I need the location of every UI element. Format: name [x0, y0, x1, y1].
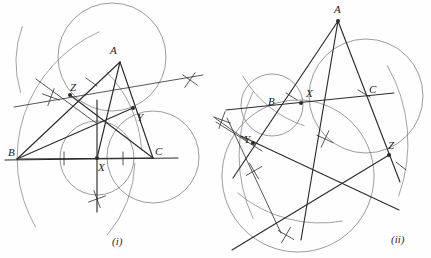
geometry-drawing: [0, 0, 431, 258]
panel-i-arc-bz-upper: [16, 26, 22, 92]
label-panel-ii-A: A: [334, 4, 341, 15]
label-panel-i-X: X: [98, 162, 105, 173]
panel-i-tick-mark-AZ: [86, 78, 97, 86]
construction-lines-layer: [5, 21, 406, 250]
panel-ii-point-Z: [387, 153, 391, 157]
label-panel-ii-C: C: [369, 84, 377, 95]
panel-ii-cevian-AX: [301, 21, 338, 240]
panel-ii-tick-near-Z: [396, 162, 406, 170]
construction-arcs-layer: [16, 26, 408, 234]
intersection-marks-layer: [43, 73, 334, 243]
panel-ii-cross-lower-left: [282, 227, 291, 243]
caption-panel-ii: (ii): [391, 234, 404, 245]
panel-i-side-CA: [120, 62, 153, 158]
label-panel-ii-Y: Y: [244, 134, 250, 145]
panel-ii-cross-under-B: [246, 167, 262, 176]
caption-panel-i: (i): [112, 236, 122, 247]
label-panel-i-C: C: [155, 146, 163, 157]
panel-ii-arc-bottom: [238, 193, 343, 223]
label-panel-i-B: B: [8, 147, 15, 158]
panel-i-cross-right-upper: [185, 73, 195, 88]
panel-ii-point-A: [336, 19, 340, 23]
panel-i-point-Y: [131, 106, 135, 110]
panel-ii-cevian-from-Z: [232, 155, 389, 250]
panel-i-point-X: [95, 156, 99, 160]
panel-ii-cross-mid: [321, 131, 329, 147]
label-panel-i-Z: Z: [70, 82, 76, 93]
panel-i-ray-ZY-extended: [14, 75, 203, 107]
panel-i-cevian-CZ: [70, 95, 153, 158]
panel-ii-circle-big-lower: [222, 100, 374, 252]
label-panel-ii-Z: Z: [388, 140, 394, 151]
panel-ii-point-Y: [251, 141, 255, 145]
panel-ii-point-X: [299, 101, 303, 105]
panel-ii-side-AC-ext: [338, 21, 400, 182]
panel-i-cross-left-upper: [48, 89, 54, 106]
label-panel-i-Y: Y: [137, 112, 143, 123]
label-panel-i-A: A: [110, 45, 117, 56]
panel-i-point-Z: [68, 93, 72, 97]
label-panel-ii-B: B: [268, 96, 275, 107]
panel-ii-side-AB-ext: [233, 21, 338, 178]
figure-canvas: A B C X Y Z (i) A B C X Y Z (ii): [0, 0, 431, 258]
panel-i-cevian-BY: [17, 108, 133, 159]
label-panel-ii-X: X: [306, 88, 313, 99]
